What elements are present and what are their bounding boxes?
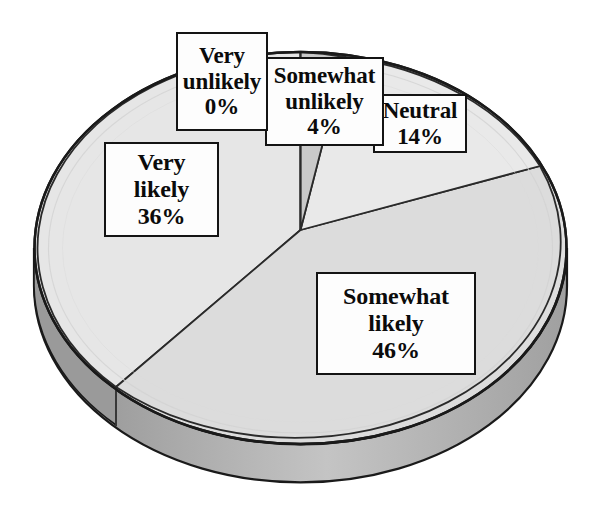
- data-label-neutral-line1: Neutral: [383, 98, 458, 124]
- data-label-somewhat-unlikely: Somewhat unlikely 4%: [265, 57, 384, 146]
- data-label-very-unlikely-percent: 0%: [205, 94, 239, 120]
- data-label-neutral-percent: 14%: [397, 124, 443, 150]
- data-label-somewhat-likely: Somewhat likely 46%: [316, 272, 476, 375]
- data-label-somewhat-unlikely-line1: Somewhat: [274, 63, 375, 89]
- data-label-somewhat-likely-line2: likely: [368, 310, 423, 337]
- data-label-very-unlikely-line1: Very: [199, 43, 245, 69]
- data-label-very-likely-line1: Very: [137, 149, 185, 176]
- data-label-very-unlikely: Very unlikely 0%: [176, 32, 268, 131]
- data-label-somewhat-unlikely-percent: 4%: [307, 114, 341, 140]
- data-label-neutral: Neutral 14%: [373, 94, 467, 153]
- data-label-very-likely-percent: 36%: [138, 203, 186, 230]
- data-label-somewhat-unlikely-line2: unlikely: [285, 89, 363, 115]
- data-label-very-unlikely-line2: unlikely: [183, 69, 261, 95]
- data-label-very-likely: Very likely 36%: [104, 142, 219, 237]
- data-label-somewhat-likely-line1: Somewhat: [343, 283, 449, 310]
- data-label-very-likely-line2: likely: [134, 176, 189, 203]
- data-label-somewhat-likely-percent: 46%: [372, 337, 420, 364]
- pie-chart-figure: Very unlikely 0% Somewhat unlikely 4% Ne…: [0, 0, 601, 509]
